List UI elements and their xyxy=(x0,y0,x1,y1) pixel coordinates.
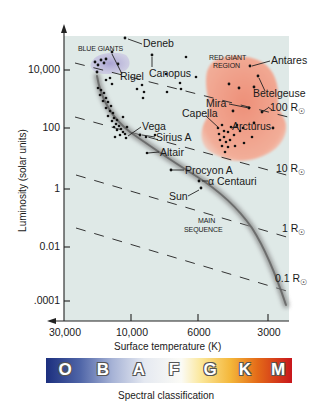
radius-label-100: 100 R☉ xyxy=(270,101,305,116)
star-label-capella: Capella xyxy=(182,107,218,119)
star-label-deneb: Deneb xyxy=(143,37,174,49)
y-tick-0.01: 0.01 xyxy=(8,240,60,252)
star-label-rigel: Rigel xyxy=(120,70,144,82)
blue-giants-label: BLUE GIANTS xyxy=(78,45,123,53)
y-tick-10000: 10,000 xyxy=(8,63,60,75)
star-label-alpha-centauri: α Centauri xyxy=(208,175,257,187)
main-sequence-label-line1: MAIN xyxy=(198,217,215,225)
spectral-class-g: G xyxy=(200,360,220,380)
sun-symbol-icon: ☉ xyxy=(298,228,305,237)
sun-symbol-icon: ☉ xyxy=(298,168,305,177)
star-label-sun: Sun xyxy=(169,190,188,202)
hr-diagram: 10,000 100 1 0.01 .0001 Luminosity (sola… xyxy=(0,0,322,410)
spectral-class-k: K xyxy=(235,360,255,380)
x-tick-3000: 3000 xyxy=(239,326,299,338)
main-sequence-label-line2: SEQUENCE xyxy=(184,226,223,234)
spectral-class-f: F xyxy=(164,360,184,380)
sun-symbol-icon: ☉ xyxy=(300,278,307,287)
star-label-arcturus: Arcturus xyxy=(232,120,271,132)
star-label-betelgeuse: Betelgeuse xyxy=(253,87,306,99)
spectral-classification-title: Spectral classification xyxy=(118,390,214,401)
radius-label-10: 10 R☉ xyxy=(276,162,305,177)
sun-symbol-icon: ☉ xyxy=(298,107,305,116)
x-axis-title: Surface temperature (K) xyxy=(114,341,221,352)
y-tick-0.0001: .0001 xyxy=(8,294,60,306)
x-tick-30000: 30,000 xyxy=(35,326,95,338)
spectral-class-o: O xyxy=(55,360,75,380)
red-giant-label-line1: RED GIANT xyxy=(209,54,246,62)
spectral-classification-bar: O B A F G K M xyxy=(46,358,292,383)
star-label-canopus: Canopus xyxy=(149,67,191,79)
spectral-class-m: M xyxy=(268,360,288,380)
red-giant-label-line2: REGION xyxy=(213,62,240,70)
star-label-altair: Altair xyxy=(160,146,184,158)
radius-label-1: 1 R☉ xyxy=(282,222,305,237)
spectral-class-b: B xyxy=(93,360,113,380)
star-label-antares: Antares xyxy=(271,54,307,66)
x-tick-10000: 10,000 xyxy=(102,326,162,338)
radius-label-0.1: 0.1 R☉ xyxy=(275,272,307,287)
x-tick-6000: 6000 xyxy=(169,326,229,338)
spectral-class-a: A xyxy=(129,360,149,380)
star-label-sirius-a: Sirius A xyxy=(156,131,192,143)
y-axis-title: Luminosity (solar units) xyxy=(17,121,28,241)
